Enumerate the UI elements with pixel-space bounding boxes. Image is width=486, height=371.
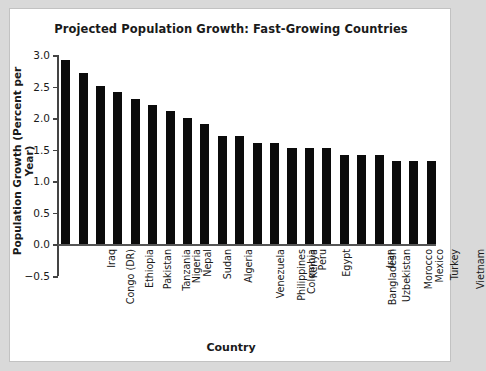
bar bbox=[131, 99, 140, 245]
bar bbox=[322, 148, 331, 244]
y-tick-label: 0.0 bbox=[33, 238, 50, 250]
bar-rect bbox=[79, 73, 88, 245]
bar bbox=[409, 161, 418, 244]
bar-rect bbox=[322, 148, 331, 244]
x-tick-label: Peru bbox=[317, 249, 328, 270]
x-tick-label: Iran bbox=[384, 249, 395, 268]
x-tick-label: Vietnam bbox=[475, 249, 486, 289]
bar-rect bbox=[253, 143, 262, 245]
bar-rect bbox=[218, 136, 227, 245]
bar-rect bbox=[409, 161, 418, 244]
bar-rect bbox=[183, 118, 192, 245]
bar bbox=[235, 136, 244, 245]
x-tick-label: Philippines bbox=[295, 249, 306, 301]
x-tick-label: Nigeria bbox=[191, 249, 202, 283]
bar bbox=[287, 148, 296, 244]
bar-rect bbox=[61, 60, 70, 244]
bar bbox=[270, 143, 279, 245]
chart-title: Projected Population Growth: Fast-Growin… bbox=[10, 22, 452, 36]
y-tick-label: 3.0 bbox=[33, 49, 50, 61]
y-tick-label: 2.5 bbox=[33, 81, 50, 93]
x-tick-label: Egypt bbox=[341, 249, 352, 277]
bar-rect bbox=[96, 86, 105, 244]
bar-rect bbox=[305, 148, 314, 244]
bar bbox=[357, 155, 366, 245]
bar bbox=[305, 148, 314, 244]
bar bbox=[340, 155, 349, 245]
bar-rect bbox=[375, 155, 384, 245]
plot-area: −0.50.00.51.01.52.02.53.0 Congo (DR)Iraq… bbox=[57, 47, 440, 295]
bar-rect bbox=[270, 143, 279, 245]
bar-rect bbox=[148, 105, 157, 245]
y-tick-label: −0.5 bbox=[25, 270, 51, 282]
bar bbox=[375, 155, 384, 245]
chart-figure: Projected Population Growth: Fast-Growin… bbox=[9, 8, 451, 362]
x-tick-label: Iraq bbox=[106, 249, 117, 268]
bar bbox=[253, 143, 262, 245]
x-tick-label: Pakistan bbox=[162, 249, 173, 289]
bar-rect bbox=[340, 155, 349, 245]
y-tick-label: 1.0 bbox=[33, 175, 50, 187]
bar-rect bbox=[287, 148, 296, 244]
x-tick-label: Ethiopia bbox=[144, 249, 155, 288]
x-tick-label: Algeria bbox=[243, 249, 254, 283]
y-tick-label: 2.0 bbox=[33, 112, 50, 124]
bar bbox=[79, 73, 88, 245]
bar bbox=[148, 105, 157, 245]
bar bbox=[218, 136, 227, 245]
x-tick-label: Turkey bbox=[449, 249, 460, 280]
x-tick-label: Sudan bbox=[222, 249, 233, 279]
bar-rect bbox=[357, 155, 366, 245]
bar bbox=[61, 60, 70, 244]
y-tick-label: 1.5 bbox=[33, 144, 50, 156]
y-tick-label: 0.5 bbox=[33, 207, 50, 219]
bar-rect bbox=[427, 161, 436, 244]
y-axis-label: Population Growth (Percent per Year) bbox=[11, 51, 35, 271]
bar bbox=[183, 118, 192, 245]
x-axis-label: Country bbox=[10, 341, 452, 354]
x-tick-label: Mexico bbox=[434, 249, 445, 283]
bar-rect bbox=[113, 92, 122, 244]
bar bbox=[392, 161, 401, 244]
bar-rect bbox=[131, 99, 140, 245]
bar bbox=[200, 124, 209, 245]
bar bbox=[166, 111, 175, 244]
bar bbox=[427, 161, 436, 244]
bar bbox=[96, 86, 105, 244]
bar-rect bbox=[235, 136, 244, 245]
bar-rect bbox=[200, 124, 209, 245]
x-tick-label: Uzbekistan bbox=[401, 249, 412, 302]
bar-rect bbox=[166, 111, 175, 244]
bar bbox=[113, 92, 122, 244]
x-tick-label: Venezuela bbox=[276, 249, 287, 298]
x-tick-label: Nepal bbox=[202, 249, 213, 277]
bar-rect bbox=[392, 161, 401, 244]
x-tick-label: Congo (DR) bbox=[125, 249, 136, 304]
